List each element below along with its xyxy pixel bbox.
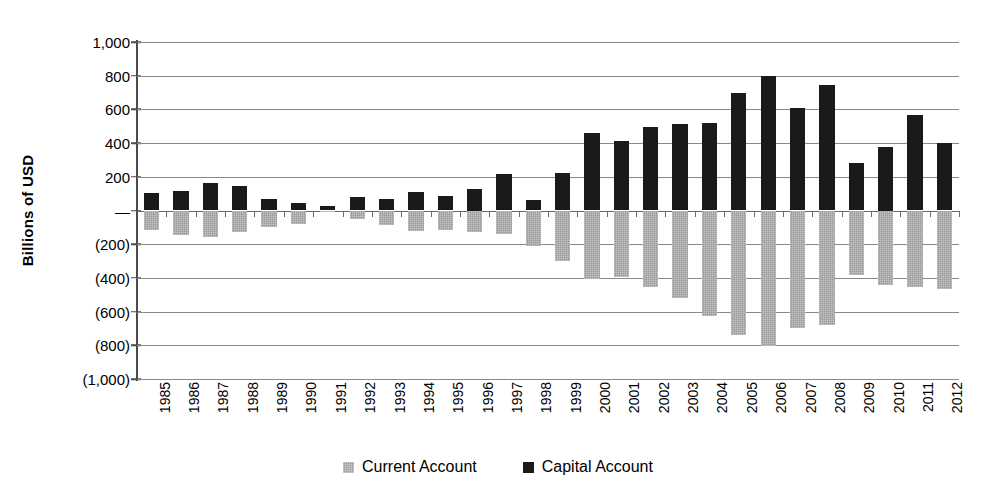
bar-group: [232, 42, 247, 379]
bar-group: [731, 42, 746, 379]
bar: [496, 174, 511, 210]
x-axis-tick-labels: 1985198619871988198919901991199219931994…: [137, 382, 959, 444]
x-axis-tick-label: 1985: [158, 382, 172, 442]
x-axis-tick-mark: [724, 211, 725, 217]
bar: [878, 147, 893, 210]
x-axis-tick-mark: [607, 211, 608, 217]
x-axis-tick-mark: [636, 211, 637, 217]
bar-group: [819, 42, 834, 379]
bar: [526, 211, 541, 246]
y-axis-tick-labels: 1,000800600400200—(200)(400)(600)(800)(1…: [30, 42, 130, 379]
chart-legend: Current AccountCapital Account: [0, 458, 996, 476]
x-axis-tick-mark: [489, 211, 490, 217]
bar: [467, 211, 482, 232]
bar: [849, 163, 864, 210]
bar-group: [350, 42, 365, 379]
bar: [555, 211, 570, 262]
bar: [643, 127, 658, 210]
bar: [496, 211, 511, 235]
bar: [643, 211, 658, 288]
bar: [614, 141, 629, 210]
bar-group: [937, 42, 952, 379]
bar: [878, 211, 893, 285]
bar: [584, 133, 599, 211]
legend-item[interactable]: Capital Account: [523, 458, 653, 476]
x-axis-tick-mark: [313, 211, 314, 217]
x-axis-tick-label: 1990: [304, 382, 318, 442]
bar: [173, 191, 188, 210]
x-axis-tick-mark: [783, 211, 784, 217]
bar-group: [849, 42, 864, 379]
bar-group: [496, 42, 511, 379]
y-axis-tick-label: 1,000: [34, 35, 130, 50]
bar: [261, 199, 276, 211]
bar: [232, 211, 247, 232]
x-axis-tick-label: 1999: [569, 382, 583, 442]
bar-group: [614, 42, 629, 379]
x-axis-tick-label: 2012: [950, 382, 964, 442]
bar: [937, 143, 952, 210]
y-axis-tick-label: 400: [34, 136, 130, 151]
x-axis-tick-label: 1993: [393, 382, 407, 442]
x-axis-tick-label: 2000: [598, 382, 612, 442]
x-axis-tick-mark: [842, 211, 843, 217]
y-axis-tick-label: (1,000): [34, 372, 130, 387]
legend-item[interactable]: Current Account: [343, 458, 477, 476]
bar: [849, 211, 864, 275]
x-axis-tick-label: 2010: [892, 382, 906, 442]
bar: [819, 85, 834, 211]
x-axis-tick-mark: [225, 211, 226, 217]
x-axis-tick-mark: [196, 211, 197, 217]
bar-group: [438, 42, 453, 379]
x-axis-tick-label: 1994: [422, 382, 436, 442]
bar: [203, 211, 218, 238]
y-axis-tick-label: —: [34, 203, 130, 218]
bar-group: [584, 42, 599, 379]
bar-group: [878, 42, 893, 379]
x-axis-tick-label: 1998: [539, 382, 553, 442]
x-axis-tick-mark: [812, 211, 813, 217]
x-axis-tick-label: 2008: [833, 382, 847, 442]
gridline: [137, 379, 959, 380]
bar-group: [702, 42, 717, 379]
x-axis-tick-label: 1996: [481, 382, 495, 442]
y-axis-tick-label: (800): [34, 338, 130, 353]
bar-group: [790, 42, 805, 379]
x-axis-tick-label: 1987: [216, 382, 230, 442]
bar-group: [261, 42, 276, 379]
x-axis-tick-label: 2002: [657, 382, 671, 442]
bar: [731, 211, 746, 336]
x-axis-tick-mark: [519, 211, 520, 217]
x-axis-tick-mark: [431, 211, 432, 217]
bar: [379, 211, 394, 225]
x-axis-tick-mark: [372, 211, 373, 217]
y-axis-tick-label: (600): [34, 304, 130, 319]
x-axis-tick-mark: [284, 211, 285, 217]
bar: [203, 183, 218, 211]
bar-group: [555, 42, 570, 379]
x-axis-tick-label: 1997: [510, 382, 524, 442]
bar-group: [291, 42, 306, 379]
bar: [907, 115, 922, 210]
x-axis-tick-mark: [871, 211, 872, 217]
legend-swatch-icon: [343, 462, 354, 473]
x-axis-tick-mark: [460, 211, 461, 217]
x-axis-tick-label: 1986: [187, 382, 201, 442]
bar: [526, 200, 541, 211]
bar-group: [761, 42, 776, 379]
bar-group: [907, 42, 922, 379]
x-axis-tick-mark: [930, 211, 931, 217]
x-axis-tick-label: 2003: [686, 382, 700, 442]
x-axis-tick-mark: [754, 211, 755, 217]
x-axis-tick-label: 2004: [715, 382, 729, 442]
bar: [408, 211, 423, 231]
bar: [702, 123, 717, 211]
bar: [702, 211, 717, 316]
legend-label: Current Account: [362, 458, 477, 476]
bar: [173, 211, 188, 235]
bar: [614, 211, 629, 278]
y-axis-tick-label: 800: [34, 68, 130, 83]
bar: [819, 211, 834, 326]
x-axis-tick-mark: [900, 211, 901, 217]
plot-bars: [137, 42, 959, 379]
